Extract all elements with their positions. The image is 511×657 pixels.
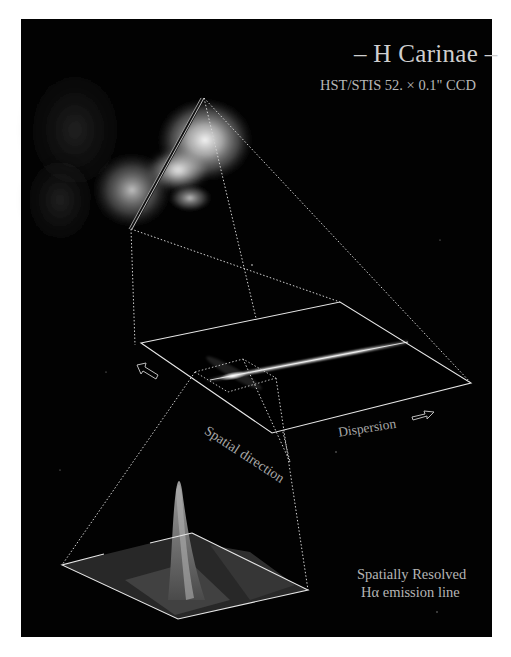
caption-line-2: Hα emission line: [361, 584, 460, 601]
figure-subtitle: HST/STIS 52. × 0.1" CCD: [320, 77, 476, 94]
figure-title: – H Carinae –: [354, 40, 497, 68]
caption-line-1: Spatially Resolved: [357, 566, 466, 583]
hollow-arrow-up-left-icon: [137, 363, 158, 379]
ccd-detector-plane: [141, 302, 471, 433]
hollow-arrow-right-icon: [412, 411, 434, 420]
emission-line-surface-plot: [62, 481, 308, 619]
spectroscopy-diagram: [0, 0, 511, 657]
